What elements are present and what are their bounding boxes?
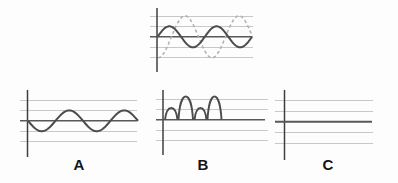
panel-option-b: B	[156, 90, 268, 173]
panel-top-combined-waves	[150, 8, 253, 72]
panel-option-c: C	[275, 90, 373, 173]
wave-superposition-diagram: A B C	[0, 0, 398, 183]
figure-canvas: A B C	[0, 0, 398, 183]
panel-b-label: B	[198, 156, 209, 173]
panel-option-a: A	[20, 90, 138, 173]
panel-c-label: C	[323, 156, 334, 173]
panel-a-label: A	[74, 156, 85, 173]
hump-waves	[165, 96, 222, 119]
